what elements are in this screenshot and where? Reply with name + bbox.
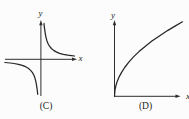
c-x-axis-arrow-icon bbox=[72, 58, 77, 62]
panel-d: y x (D) bbox=[95, 0, 189, 119]
c-x-axis-label: x bbox=[78, 53, 83, 63]
d-curve-sqrt bbox=[115, 22, 183, 97]
c-y-axis-label: y bbox=[38, 8, 43, 18]
function-graphs-figure: y x (C) y x (D) bbox=[0, 0, 189, 119]
d-caption: (D) bbox=[139, 101, 152, 112]
panel-c: y x (C) bbox=[0, 0, 95, 119]
d-y-axis-arrow-icon bbox=[113, 20, 116, 25]
d-x-axis-label: x bbox=[185, 91, 189, 101]
d-x-axis-arrow-icon bbox=[176, 95, 181, 99]
d-y-axis-label: y bbox=[110, 10, 115, 20]
c-y-axis-arrow-icon bbox=[39, 20, 42, 25]
c-caption: (C) bbox=[40, 101, 53, 112]
c-curve-quadrant1 bbox=[44, 24, 75, 57]
c-curve-quadrant3 bbox=[5, 63, 38, 95]
